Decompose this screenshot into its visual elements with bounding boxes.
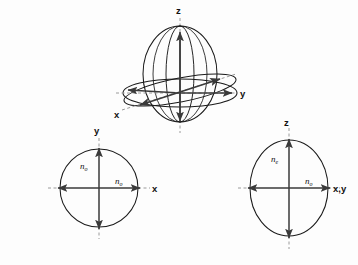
indicatrix-ellipsoid-group: z y x	[114, 5, 246, 133]
left-vertical-index-label: no	[80, 161, 88, 172]
x-axis-arrow-upper	[180, 79, 220, 92]
indicatrix-figure: z y x y x no no z x,y ne	[0, 0, 358, 265]
elliptical-section-group: z x,y ne no	[238, 117, 347, 249]
right-xy-axis-label: x,y	[333, 183, 347, 194]
y-axis-arrow-left	[128, 90, 180, 93]
ellipsoid-y-label: y	[240, 88, 246, 99]
circular-section-group: y x no no	[48, 125, 158, 239]
right-z-axis-label: z	[284, 117, 289, 128]
left-horizontal-index-label: no	[115, 176, 123, 187]
right-horizontal-index-label: no	[305, 176, 313, 187]
left-x-axis-label: x	[152, 183, 158, 194]
ellipsoid-x-label: x	[114, 109, 120, 120]
left-y-axis-label: y	[94, 125, 100, 136]
ellipsoid-z-label: z	[176, 5, 181, 16]
right-vertical-index-label: ne	[271, 154, 279, 165]
